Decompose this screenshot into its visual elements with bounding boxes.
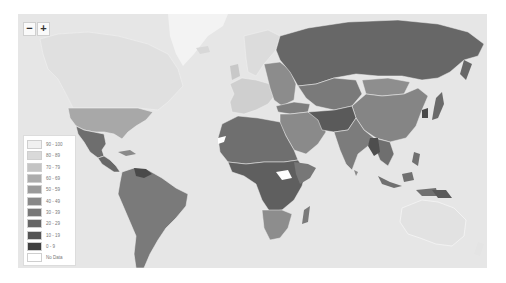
map-canvas[interactable] — [18, 14, 487, 268]
legend-label: 50 - 59 — [46, 187, 60, 192]
legend-item: 0 - 9 — [27, 241, 73, 252]
legend-swatch — [27, 151, 42, 160]
world-map[interactable]: − + 90 - 100 80 - 89 70 - 79 60 - 69 50 … — [18, 14, 487, 268]
legend-swatch — [27, 219, 42, 228]
legend-swatch — [27, 163, 42, 172]
map-legend: 90 - 100 80 - 89 70 - 79 60 - 69 50 - 59… — [23, 135, 76, 266]
legend-label: 0 - 9 — [46, 244, 55, 249]
legend-item: 60 - 69 — [27, 173, 73, 184]
legend-swatch — [27, 242, 42, 251]
legend-label: 70 - 79 — [46, 165, 60, 170]
legend-item: 80 - 89 — [27, 150, 73, 161]
legend-item: 40 - 49 — [27, 195, 73, 206]
legend-swatch — [27, 174, 42, 183]
legend-item: No Data — [27, 252, 73, 263]
legend-label: 10 - 19 — [46, 233, 60, 238]
legend-swatch — [27, 140, 42, 149]
legend-label: 30 - 39 — [46, 210, 60, 215]
legend-label: 80 - 89 — [46, 153, 60, 158]
legend-item: 20 - 29 — [27, 218, 73, 229]
legend-swatch — [27, 231, 42, 240]
legend-item: 90 - 100 — [27, 139, 73, 150]
legend-swatch — [27, 253, 42, 262]
legend-item: 70 - 79 — [27, 162, 73, 173]
legend-swatch — [27, 208, 42, 217]
zoom-in-button[interactable]: + — [37, 22, 50, 36]
legend-label: No Data — [46, 255, 63, 260]
legend-item: 50 - 59 — [27, 184, 73, 195]
region-mongolia[interactable] — [362, 78, 410, 96]
zoom-controls: − + — [23, 22, 50, 36]
legend-label: 60 - 69 — [46, 176, 60, 181]
zoom-out-button[interactable]: − — [23, 22, 36, 36]
legend-swatch — [27, 185, 42, 194]
legend-label: 20 - 29 — [46, 221, 60, 226]
legend-label: 40 - 49 — [46, 199, 60, 204]
legend-item: 30 - 39 — [27, 207, 73, 218]
legend-swatch — [27, 197, 42, 206]
legend-item: 10 - 19 — [27, 229, 73, 240]
legend-label: 90 - 100 — [46, 142, 63, 147]
